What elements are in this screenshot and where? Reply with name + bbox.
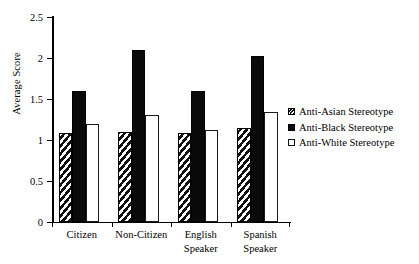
x-axis-label: EnglishSpeaker: [171, 228, 231, 255]
x-axis-label-line: Citizen: [52, 228, 112, 242]
bar: [118, 132, 132, 222]
legend-item-label: Anti-White Stereotype: [299, 137, 394, 148]
y-axis-title: Average Score: [11, 38, 22, 130]
x-tick-mark: [171, 222, 172, 227]
legend-swatch-icon: [288, 124, 295, 131]
bar-group: [52, 17, 112, 222]
y-tick-label: 0: [38, 217, 43, 228]
x-axis-label-line: Speaker: [231, 242, 291, 256]
x-tick-mark: [231, 222, 232, 227]
y-tick-label: 2: [38, 53, 43, 64]
x-axis-label: SpanishSpeaker: [231, 228, 291, 255]
bar: [72, 91, 86, 222]
x-axis-label-line: Spanish: [231, 228, 291, 242]
bar: [132, 50, 146, 222]
legend-item-label: Anti-Black Stereotype: [299, 122, 393, 133]
x-axis-label: Citizen: [52, 228, 112, 242]
bar: [205, 130, 219, 222]
y-tick-label: 1.5: [30, 94, 43, 105]
bar: [191, 91, 205, 222]
x-tick-mark: [52, 222, 53, 227]
x-axis-labels: CitizenNon-CitizenEnglishSpeakerSpanishS…: [52, 228, 291, 262]
x-tick-mark: [289, 222, 290, 227]
legend-item: Anti-Black Stereotype: [288, 120, 416, 136]
bar: [264, 112, 278, 222]
bar: [251, 56, 265, 222]
bar-group: [112, 17, 172, 222]
legend-swatch-icon: [288, 108, 295, 115]
y-tick-label: 0.5: [30, 176, 43, 187]
bar-group: [171, 17, 231, 222]
bar: [86, 124, 100, 222]
x-axis-label-line: Non-Citizen: [112, 228, 172, 242]
legend-item: Anti-Asian Stereotype: [288, 104, 416, 120]
bar: [145, 115, 159, 222]
x-tick-mark: [112, 222, 113, 227]
chart-legend: Anti-Asian StereotypeAnti-Black Stereoty…: [288, 104, 416, 151]
bar-group: [231, 17, 291, 222]
x-axis-label-line: Speaker: [171, 242, 231, 256]
x-axis-label-line: English: [171, 228, 231, 242]
plot-area: 00.511.522.5: [52, 17, 290, 222]
legend-item-label: Anti-Asian Stereotype: [299, 106, 393, 117]
y-tick-label: 1: [38, 135, 43, 146]
x-axis-label: Non-Citizen: [112, 228, 172, 242]
bar-chart: Average Score 00.511.522.5 CitizenNon-Ci…: [0, 0, 419, 264]
bar: [237, 128, 251, 222]
bar: [59, 133, 73, 222]
y-tick-label: 2.5: [30, 12, 43, 23]
bar: [178, 133, 192, 222]
legend-item: Anti-White Stereotype: [288, 135, 416, 151]
legend-swatch-icon: [288, 139, 295, 146]
